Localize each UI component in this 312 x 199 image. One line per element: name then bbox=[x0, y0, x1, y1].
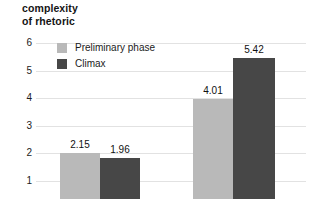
y-axis-label-3: 3 bbox=[12, 121, 32, 131]
y-axis-label-1: 1 bbox=[12, 176, 32, 186]
bar-chart: complexity of rhetoric 6 5 4 3 2 1 2.15 … bbox=[0, 0, 312, 199]
plot-area: 6 5 4 3 2 1 2.15 1.96 4.01 5.42 bbox=[0, 0, 312, 199]
legend-swatch-icon-climax bbox=[57, 59, 67, 69]
bar-value-group1-climax: 1.96 bbox=[100, 145, 140, 155]
bar-group2-preliminary-phase bbox=[193, 99, 233, 199]
bar-value-group2-preliminary-phase: 4.01 bbox=[193, 86, 233, 96]
bar-value-group1-preliminary-phase: 2.15 bbox=[60, 140, 100, 150]
legend-item-climax: Climax bbox=[57, 57, 155, 70]
bar-group1-preliminary-phase bbox=[60, 153, 100, 199]
legend-swatch-icon-preliminary-phase bbox=[57, 43, 67, 53]
y-axis-label-2: 2 bbox=[12, 148, 32, 158]
legend-label-climax: Climax bbox=[75, 58, 106, 69]
legend-item-preliminary-phase: Preliminary phase bbox=[57, 41, 155, 54]
y-axis-label-6: 6 bbox=[12, 38, 32, 48]
y-axis-label-5: 5 bbox=[12, 66, 32, 76]
legend-label-preliminary-phase: Preliminary phase bbox=[75, 42, 155, 53]
bar-group1-climax bbox=[100, 158, 140, 199]
bar-value-group2-climax: 5.42 bbox=[233, 45, 275, 55]
chart-legend: Preliminary phase Climax bbox=[57, 41, 155, 73]
bar-group2-climax bbox=[233, 58, 275, 199]
y-axis-label-4: 4 bbox=[12, 93, 32, 103]
